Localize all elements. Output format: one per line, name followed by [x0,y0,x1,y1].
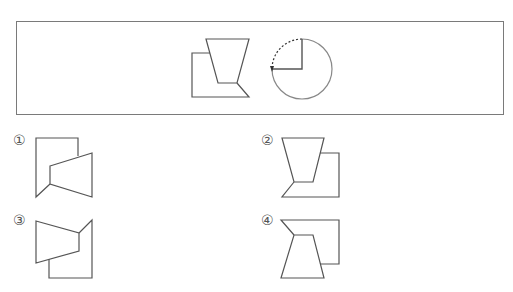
question-shape [192,39,249,97]
option-4-shape[interactable] [281,220,339,278]
figures-canvas [0,0,513,292]
option-2-shape[interactable] [282,138,339,197]
rotation-indicator-icon [270,39,332,99]
option-1-label[interactable]: ① [13,133,26,147]
option-1-shape[interactable] [36,138,92,197]
option-3-label[interactable]: ③ [13,213,26,227]
option-4-label[interactable]: ④ [261,213,274,227]
option-2-label[interactable]: ② [261,133,274,147]
question-square [192,53,249,97]
question-trapezoid [206,39,249,83]
option-3-shape[interactable] [36,220,92,278]
